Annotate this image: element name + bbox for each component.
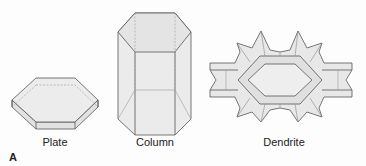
- panel-label: A: [9, 151, 17, 163]
- plate-crystal: [12, 78, 98, 129]
- plate-label: Plate: [42, 136, 67, 148]
- column-label: Column: [136, 136, 174, 148]
- dendrite-label: Dendrite: [263, 136, 305, 148]
- dendrite-crystal: [210, 31, 352, 122]
- column-crystal: [118, 13, 191, 135]
- ice-crystal-figure: Plate Column Dendrite A: [0, 0, 366, 166]
